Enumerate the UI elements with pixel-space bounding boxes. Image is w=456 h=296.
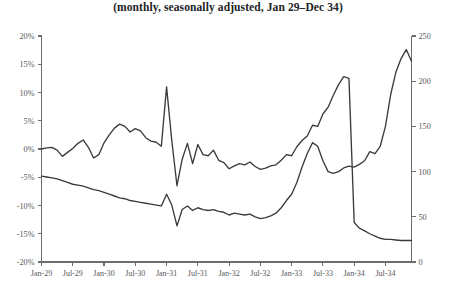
- x-axis-tick-label: Jul-32: [250, 269, 270, 278]
- x-axis-tick-label: Jan-30: [93, 269, 114, 278]
- left-axis-tick-label: 10%: [19, 89, 34, 98]
- right-axis-tick-label: 200: [419, 77, 431, 86]
- chart-ticks: [38, 36, 416, 266]
- x-axis-tick-label: Jul-29: [63, 269, 83, 278]
- left-axis-tick-label: -15%: [17, 230, 35, 239]
- x-axis-tick-label: Jan-29: [31, 269, 52, 278]
- right-axis-tick-label: 150: [419, 122, 431, 131]
- left-axis-tick-label: -10%: [17, 202, 35, 211]
- x-axis-tick-label: Jul-34: [375, 269, 395, 278]
- left-axis-tick-label: 0%: [24, 145, 35, 154]
- x-axis-tick-label: Jan-34: [344, 269, 365, 278]
- right-axis-tick-label: 0: [419, 258, 423, 267]
- series-line-index-level-series: [42, 50, 412, 226]
- x-axis-tick-label: Jul-33: [313, 269, 333, 278]
- right-axis-tick-label: 100: [419, 168, 431, 177]
- x-axis-tick-label: Jul-31: [188, 269, 208, 278]
- right-axis-tick-label: 250: [419, 32, 431, 41]
- left-axis-tick-label: 20%: [19, 32, 34, 41]
- left-axis-tick-label: -5%: [21, 173, 35, 182]
- chart-series-lines: [42, 50, 412, 241]
- chart-figure: (monthly, seasonally adjusted, Jan 29–De…: [0, 0, 456, 296]
- chart-title: (monthly, seasonally adjusted, Jan 29–De…: [0, 1, 456, 13]
- x-axis-tick-label: Jan-31: [156, 269, 177, 278]
- left-axis-tick-label: 5%: [24, 117, 35, 126]
- right-axis-tick-label: 50: [419, 213, 427, 222]
- x-axis-tick-label: Jan-33: [281, 269, 302, 278]
- x-axis-tick-label: Jul-30: [125, 269, 145, 278]
- x-axis-tick-label: Jan-32: [218, 269, 239, 278]
- left-axis-tick-label: 15%: [19, 60, 34, 69]
- chart-plot-area: 20%15%10%5%0%-5%-10%-15%-20%250200150100…: [0, 0, 456, 296]
- left-axis-tick-label: -20%: [17, 258, 35, 267]
- series-line-percent-change-series: [42, 77, 412, 241]
- chart-axes: [42, 36, 412, 262]
